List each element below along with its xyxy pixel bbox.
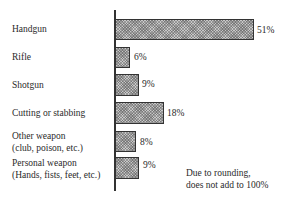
category-label-shotgun: Shotgun: [12, 80, 44, 91]
category-label-personal-line2: (Hands, fists, feet, etc.): [12, 170, 100, 181]
category-label-handgun: Handgun: [12, 24, 47, 35]
value-label-personal: 9%: [143, 160, 156, 171]
rounding-note: Due to rounding, does not add to 100%: [186, 167, 268, 191]
bar-rifle: [115, 47, 130, 68]
category-label-cutting: Cutting or stabbing: [12, 108, 85, 119]
bar-cutting: [115, 102, 164, 124]
category-label-personal-line1: Personal weapon: [12, 158, 77, 169]
value-label-other: 8%: [140, 137, 153, 148]
bar-personal: [115, 157, 139, 179]
bar-shotgun: [115, 74, 139, 96]
value-label-cutting: 18%: [167, 108, 184, 119]
bar-handgun: [115, 19, 254, 40]
category-label-other-line1: Other weapon: [12, 131, 66, 142]
category-label-rifle: Rifle: [12, 52, 31, 63]
bar-other: [115, 131, 136, 152]
value-label-shotgun: 9%: [142, 79, 155, 90]
value-label-handgun: 51%: [257, 25, 274, 36]
rounding-note-line2: does not add to 100%: [186, 179, 268, 191]
rounding-note-line1: Due to rounding,: [186, 167, 268, 179]
value-label-rifle: 6%: [134, 52, 147, 63]
category-label-other-line2: (club, poison, etc.): [12, 143, 83, 154]
